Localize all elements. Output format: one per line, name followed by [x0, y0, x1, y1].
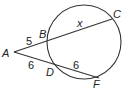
secant-af — [14, 52, 99, 78]
secant-diagram: A B C D F 5 x 6 6 — [0, 0, 124, 88]
circle — [47, 5, 121, 79]
segment-label-ab: 5 — [26, 35, 32, 47]
segment-label-ad: 6 — [28, 59, 34, 71]
point-label-c: C — [113, 8, 121, 20]
segment-label-bc: x — [76, 17, 83, 29]
point-label-a: A — [1, 47, 9, 59]
point-label-f: F — [93, 78, 101, 88]
segment-label-df: 6 — [73, 59, 79, 71]
point-label-b: B — [39, 28, 46, 40]
point-label-d: D — [46, 66, 54, 78]
